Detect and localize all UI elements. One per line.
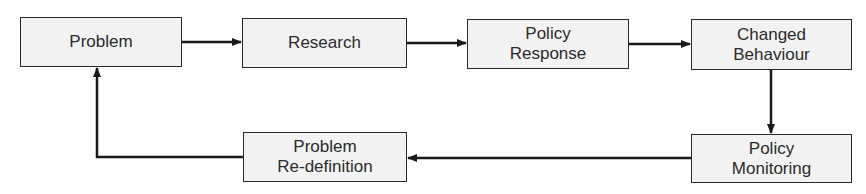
node-research: Research — [242, 18, 407, 68]
node-label-line-1: Policy — [510, 24, 587, 44]
node-problem-redefinition: Problem Re-definition — [243, 132, 407, 182]
node-label-line-2: Re-definition — [277, 157, 372, 177]
node-label-line-1: Changed — [733, 25, 810, 45]
node-label-line-2: Response — [510, 44, 587, 64]
node-label: Problem — [69, 32, 132, 52]
node-changed-behaviour: Changed Behaviour — [691, 19, 852, 70]
node-problem: Problem — [20, 17, 182, 67]
node-policy-monitoring: Policy Monitoring — [691, 134, 852, 183]
arrow-problem-redefinition-to-problem — [97, 68, 243, 157]
node-label-line-2: Behaviour — [733, 45, 810, 65]
node-label-line-2: Monitoring — [732, 159, 811, 179]
node-label: Research — [288, 33, 361, 53]
node-policy-response: Policy Response — [467, 19, 629, 69]
node-label-line-1: Policy — [732, 139, 811, 159]
node-label-line-1: Problem — [277, 137, 372, 157]
